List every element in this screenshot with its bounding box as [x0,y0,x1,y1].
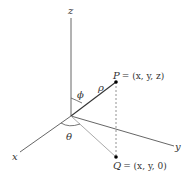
theta-label: θ [66,131,72,142]
phi-label: ϕ [77,89,84,100]
spherical-coordinates-diagram: z x y ϕ ρ θ P= (x, y, z) Q= (x, y, 0) [0,0,185,175]
y-axis-label: y [174,141,181,152]
theta-arc [61,123,80,126]
x-axis [20,116,71,152]
point-p-label: P= (x, y, z) [112,70,164,81]
x-axis-label: x [12,151,18,162]
rho-label: ρ [97,82,104,93]
point-q [114,155,118,159]
z-axis-label: z [67,5,74,16]
y-axis [71,116,174,146]
point-q-label: Q= (x, y, 0) [113,160,167,171]
